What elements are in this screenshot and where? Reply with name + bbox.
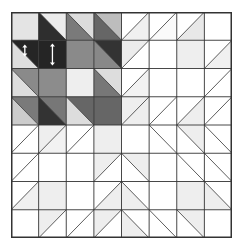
grid-cell — [204, 97, 232, 125]
grid-cell — [39, 69, 67, 97]
grid-cell — [177, 182, 205, 210]
grid-cell — [149, 97, 177, 125]
grid-cell — [204, 40, 232, 68]
grid-cell — [39, 40, 67, 68]
grid-cell — [11, 40, 39, 68]
grid-cell — [94, 12, 122, 40]
grid-cell — [66, 182, 94, 210]
grid-cell — [122, 125, 150, 153]
grid-cell — [66, 97, 94, 125]
grid-cell — [204, 69, 232, 97]
grid-cell — [149, 12, 177, 40]
grid-cell — [177, 97, 205, 125]
grid-cell — [66, 69, 94, 97]
grid-cell — [204, 182, 232, 210]
grid-cell — [39, 153, 67, 181]
grid-cell — [94, 40, 122, 68]
grid-cell — [149, 153, 177, 181]
grid-cell — [94, 69, 122, 97]
grid-cell — [66, 12, 94, 40]
grid-cell — [177, 153, 205, 181]
grid-cell — [204, 210, 232, 238]
grid-cell — [11, 12, 39, 40]
grid-cell — [11, 153, 39, 181]
grid-cell — [11, 210, 39, 238]
grid-cell — [122, 40, 150, 68]
grid-cell — [11, 125, 39, 153]
grid-cell — [94, 125, 122, 153]
grid-cell — [11, 97, 39, 125]
grid-cell — [39, 125, 67, 153]
grid-cell — [39, 182, 67, 210]
grid-cell — [66, 40, 94, 68]
grid-cell — [149, 125, 177, 153]
grid-cell — [149, 210, 177, 238]
grid-cell — [204, 125, 232, 153]
grid-cell — [149, 40, 177, 68]
grid-cell — [66, 153, 94, 181]
grid-cell — [177, 210, 205, 238]
grid-cell — [122, 182, 150, 210]
grid-cell — [204, 12, 232, 40]
grid-cell — [122, 12, 150, 40]
grid-cell — [204, 153, 232, 181]
grid-cell — [66, 210, 94, 238]
grid-cell — [177, 12, 205, 40]
grid-cell — [177, 125, 205, 153]
grid-cell — [39, 97, 67, 125]
grid-cell — [11, 182, 39, 210]
grid-cell — [177, 40, 205, 68]
grid-cell — [149, 69, 177, 97]
grid-cell — [122, 69, 150, 97]
grid-cell — [177, 69, 205, 97]
grid-cell — [94, 153, 122, 181]
grid-cell — [122, 153, 150, 181]
triangle-grid — [11, 12, 232, 238]
grid-canvas — [11, 12, 232, 238]
grid-cell — [94, 210, 122, 238]
grid-cell — [122, 210, 150, 238]
grid-cell — [94, 182, 122, 210]
grid-cell — [66, 125, 94, 153]
grid-cell — [39, 12, 67, 40]
grid-cell — [94, 97, 122, 125]
grid-cell — [11, 69, 39, 97]
grid-cell — [122, 97, 150, 125]
grid-cell — [149, 182, 177, 210]
grid-cell — [39, 210, 67, 238]
